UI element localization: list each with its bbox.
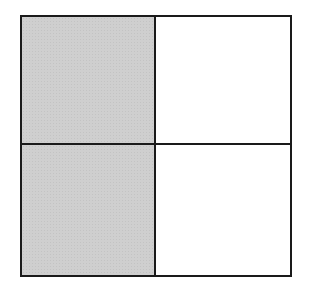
cell-bottom-right-unshaded [156, 145, 290, 275]
fraction-grid [20, 15, 292, 277]
cell-top-left-shaded [22, 17, 156, 145]
cell-top-right-unshaded [156, 17, 290, 145]
cell-bottom-left-shaded [22, 145, 156, 275]
